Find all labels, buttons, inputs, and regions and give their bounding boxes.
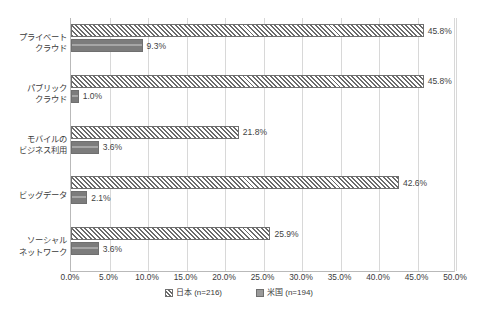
category-label-line: クラウド (35, 43, 67, 54)
legend-swatch-icon (165, 289, 173, 297)
category-label-line: ネットワーク (19, 247, 67, 258)
bar-group: 21.8%3.6% (71, 120, 454, 171)
category-label-line: ソーシャル (27, 235, 67, 246)
bar[interactable] (71, 242, 99, 255)
x-tick-label: 45.0% (405, 273, 429, 283)
bar[interactable] (71, 191, 87, 204)
legend-item[interactable]: 日本 (n=216) (165, 289, 222, 297)
bar[interactable] (71, 75, 424, 88)
bar-value-label: 45.8% (428, 26, 452, 35)
bar-value-label: 2.1% (91, 194, 110, 203)
x-tick-label: 0.0% (61, 273, 80, 283)
x-tick-label: 35.0% (328, 273, 352, 283)
bar[interactable] (71, 90, 79, 103)
legend-label: 日本 (n=216) (176, 289, 222, 297)
bar-chart: プライベートクラウドパブリッククラウドモバイルのビジネス利用ビッグデータソーシャ… (0, 0, 478, 313)
category-label-line: ビジネス利用 (19, 145, 67, 156)
bar-group: 45.8%9.3% (71, 18, 454, 69)
category-label: パブリッククラウド (0, 69, 67, 120)
bar-value-label: 25.9% (274, 229, 298, 238)
bar-value-label: 3.6% (103, 244, 122, 253)
bar-value-label: 1.0% (83, 92, 102, 101)
legend-swatch-icon (256, 289, 264, 297)
gridline (456, 18, 457, 271)
bar-value-label: 9.3% (147, 41, 166, 50)
x-tick-label: 40.0% (366, 273, 390, 283)
legend-label: 米国 (n=194) (267, 289, 313, 297)
x-tick-label: 25.0% (251, 273, 275, 283)
x-tick-label: 10.0% (135, 273, 159, 283)
x-axis-tick-labels: 0.0%5.0%10.0%15.0%20.0%25.0%30.0%35.0%40… (70, 273, 455, 287)
bar-value-label: 42.6% (403, 179, 427, 188)
bar[interactable] (71, 141, 99, 154)
bar[interactable] (71, 227, 270, 240)
category-label-line: パブリック (27, 83, 67, 94)
plot-area: 45.8%9.3%45.8%1.0%21.8%3.6%42.6%2.1%25.9… (70, 18, 455, 272)
x-tick-label: 30.0% (289, 273, 313, 283)
bar[interactable] (71, 24, 424, 37)
bar-group: 45.8%1.0% (71, 69, 454, 120)
x-tick-label: 5.0% (99, 273, 118, 283)
bar-groups: 45.8%9.3%45.8%1.0%21.8%3.6%42.6%2.1%25.9… (71, 18, 454, 271)
category-label: プライベートクラウド (0, 18, 67, 69)
category-label: ソーシャルネットワーク (0, 221, 67, 272)
bar-group: 42.6%2.1% (71, 170, 454, 221)
x-tick-label: 15.0% (174, 273, 198, 283)
bar[interactable] (71, 39, 143, 52)
x-tick-label: 50.0% (443, 273, 467, 283)
x-tick-label: 20.0% (212, 273, 236, 283)
chart-legend: 日本 (n=216)米国 (n=194) (0, 289, 478, 297)
bar-value-label: 21.8% (243, 128, 267, 137)
category-label: モバイルのビジネス利用 (0, 120, 67, 171)
category-label-line: モバイルの (27, 134, 67, 145)
category-label-line: クラウド (35, 94, 67, 105)
bar-value-label: 45.8% (428, 77, 452, 86)
category-label: ビッグデータ (0, 170, 67, 221)
bar[interactable] (71, 176, 399, 189)
bar-value-label: 3.6% (103, 143, 122, 152)
category-label-line: ビッグデータ (19, 190, 67, 201)
category-label-line: プライベート (19, 32, 67, 43)
category-axis: プライベートクラウドパブリッククラウドモバイルのビジネス利用ビッグデータソーシャ… (0, 18, 67, 272)
bar[interactable] (71, 126, 239, 139)
bar-group: 25.9%3.6% (71, 221, 454, 272)
legend-item[interactable]: 米国 (n=194) (256, 289, 313, 297)
